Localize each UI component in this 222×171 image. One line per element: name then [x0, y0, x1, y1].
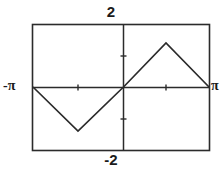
plot-svg — [0, 0, 222, 171]
graph-figure: 2 -2 -π π — [0, 0, 222, 171]
x-max-label: π — [211, 79, 219, 93]
x-min-label: -π — [3, 79, 15, 93]
y-max-label: 2 — [0, 4, 222, 19]
y-min-label: -2 — [0, 152, 222, 167]
